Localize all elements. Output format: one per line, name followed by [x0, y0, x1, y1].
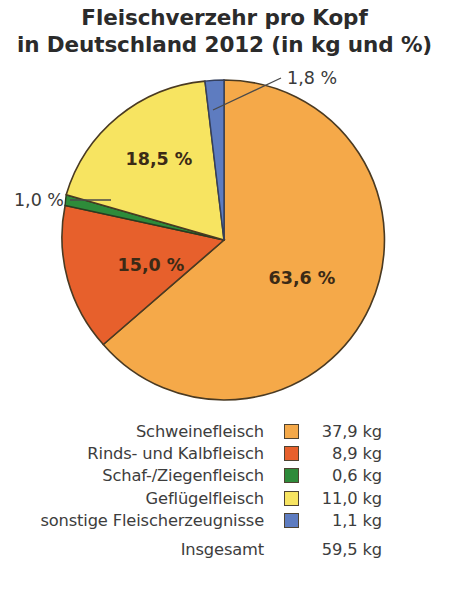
legend-value: 8,9 kg	[306, 444, 396, 463]
slice-label-rinds-kalbfleisch: 15,0 %	[118, 255, 185, 275]
legend-swatch-cell	[276, 491, 306, 506]
title-line-1: Fleischverzehr pro Kopf	[0, 4, 449, 31]
total-label: Insgesamt	[0, 540, 276, 559]
page-title: Fleischverzehr pro Kopf in Deutschland 2…	[0, 4, 449, 58]
legend-label: Schweinefleisch	[0, 422, 276, 441]
legend-label: sonstige Fleischerzeugnisse	[0, 511, 276, 530]
legend-swatch-cell	[276, 513, 306, 528]
slice-label-sonstige: 1,8 %	[287, 68, 337, 88]
legend-swatch-cell	[276, 446, 306, 461]
legend-label: Rinds- und Kalbfleisch	[0, 444, 276, 463]
legend: Schweinefleisch 37,9 kg Rinds- und Kalbf…	[0, 420, 449, 563]
legend-color-swatch	[284, 491, 299, 506]
legend-item-gefluegelfleisch[interactable]: Geflügelfleisch 11,0 kg	[0, 487, 449, 509]
chart-page: Fleischverzehr pro Kopf in Deutschland 2…	[0, 0, 449, 592]
slice-label-schweinefleisch: 63,6 %	[269, 268, 336, 288]
legend-item-schaf-ziegenfleisch[interactable]: Schaf-/Ziegenfleisch 0,6 kg	[0, 465, 449, 487]
legend-item-rinds-kalbfleisch[interactable]: Rinds- und Kalbfleisch 8,9 kg	[0, 442, 449, 464]
legend-color-swatch	[284, 424, 299, 439]
pie-slices	[62, 80, 385, 400]
legend-value: 1,1 kg	[306, 511, 396, 530]
legend-item-sonstige-fleischerzeugnisse[interactable]: sonstige Fleischerzeugnisse 1,1 kg	[0, 510, 449, 532]
slice-label-gefluegelfleisch: 18,5 %	[126, 149, 193, 169]
legend-total-row: Insgesamt 59,5 kg	[0, 537, 449, 563]
legend-color-swatch	[284, 468, 299, 483]
legend-item-schweinefleisch[interactable]: Schweinefleisch 37,9 kg	[0, 420, 449, 442]
legend-value: 11,0 kg	[306, 489, 396, 508]
slice-label-schaf: 1,0 %	[14, 190, 64, 210]
legend-value: 0,6 kg	[306, 466, 396, 485]
total-value: 59,5 kg	[306, 540, 396, 559]
legend-label: Schaf-/Ziegenfleisch	[0, 466, 276, 485]
legend-color-swatch	[284, 446, 299, 461]
legend-color-swatch	[284, 513, 299, 528]
pie-chart-svg: 63,6 % 15,0 % 18,5 % 1,8 % 1,0 %	[0, 58, 449, 418]
legend-value: 37,9 kg	[306, 422, 396, 441]
legend-swatch-cell	[276, 424, 306, 439]
title-line-2: in Deutschland 2012 (in kg und %)	[0, 31, 449, 58]
legend-label: Geflügelfleisch	[0, 489, 276, 508]
pie-chart: 63,6 % 15,0 % 18,5 % 1,8 % 1,0 %	[0, 58, 449, 418]
legend-swatch-cell	[276, 468, 306, 483]
